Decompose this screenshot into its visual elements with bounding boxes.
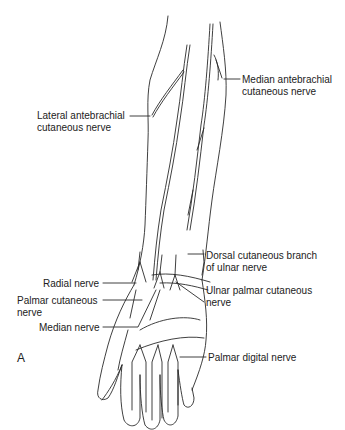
forearm-hand-illustration [0, 0, 345, 430]
panel-label: A [17, 351, 25, 365]
label-dorsal-cutaneous-branch-ulnar-nerve: Dorsal cutaneous branch of ulnar nerve [206, 250, 317, 273]
forearm-ulnar-edge [202, 22, 226, 280]
finger-index [121, 365, 140, 426]
finger-little [178, 370, 194, 407]
finger-ring [160, 370, 178, 425]
label-palmar-digital-nerve: Palmar digital nerve [208, 352, 296, 364]
finger-middle [140, 375, 160, 429]
label-ulnar-palmar-cutaneous-nerve: Ulnar palmar cutaneous nerve [206, 285, 312, 308]
hand-outline [98, 285, 134, 400]
thumb [102, 365, 122, 400]
label-median-nerve: Median nerve [39, 322, 100, 334]
label-radial-nerve: Radial nerve [43, 278, 99, 290]
forearm-radial-edge [134, 16, 168, 285]
label-median-antebrachial-cutaneous-nerve: Median antebrachial cutaneous nerve [242, 74, 332, 97]
label-palmar-cutaneous-nerve: Palmar cutaneous nerve [17, 295, 98, 318]
label-lateral-antebrachial-cutaneous-nerve: Lateral antebrachial cutaneous nerve [37, 110, 125, 133]
